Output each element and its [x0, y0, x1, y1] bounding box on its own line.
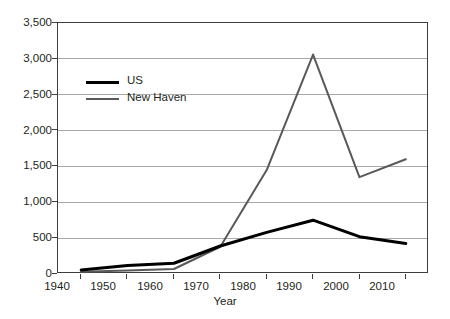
- legend-item-us: US: [86, 74, 236, 91]
- y-tick-label: 3,500: [4, 17, 52, 29]
- plot-area: US New Haven: [57, 22, 428, 273]
- x-tick-label: 1970: [173, 281, 219, 293]
- legend-swatch-us: [86, 81, 119, 84]
- y-tick-label: 3,000: [4, 53, 52, 65]
- x-tick-mark: [359, 274, 360, 279]
- chart-legend: US New Haven: [86, 74, 236, 108]
- y-tick-label: 2,500: [4, 89, 52, 101]
- legend-label-new-haven: New Haven: [127, 91, 186, 103]
- series-line-us: [81, 220, 406, 270]
- x-tick-label: 1950: [80, 281, 126, 293]
- x-tick-mark: [219, 274, 220, 279]
- y-tick-mark: [52, 273, 57, 274]
- legend-label-us: US: [127, 74, 143, 86]
- x-tick-label: 1940: [34, 281, 80, 293]
- legend-item-new-haven: New Haven: [86, 91, 236, 108]
- x-tick-label: 1960: [127, 281, 173, 293]
- x-tick-label: 2000: [313, 281, 359, 293]
- chart-figure: 3,500 3,000 2,500 2,000 1,500 1,000 500 …: [0, 0, 450, 319]
- x-tick-mark: [405, 274, 406, 279]
- x-tick-label: 2010: [359, 281, 405, 293]
- x-tick-label: 1980: [220, 281, 266, 293]
- x-axis-title: Year: [0, 295, 450, 307]
- y-tick-label: 1,000: [4, 196, 52, 208]
- y-tick-label: 1,500: [4, 160, 52, 172]
- x-tick-mark: [80, 274, 81, 279]
- legend-swatch-new-haven: [86, 98, 119, 100]
- y-tick-label: 2,000: [4, 125, 52, 137]
- series-canvas: [58, 23, 429, 274]
- x-tick-mark: [173, 274, 174, 279]
- y-tick-label: 0: [4, 268, 52, 280]
- x-tick-mark: [312, 274, 313, 279]
- x-tick-label: 1990: [266, 281, 312, 293]
- y-tick-label: 500: [4, 232, 52, 244]
- x-tick-mark: [266, 274, 267, 279]
- x-tick-mark: [126, 274, 127, 279]
